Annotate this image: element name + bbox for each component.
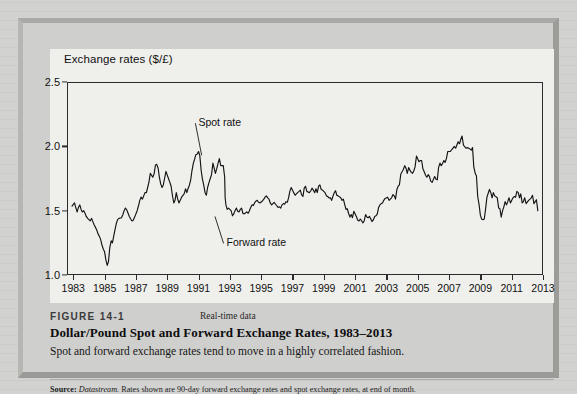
- source-detail: Rates shown are 90-day forward exchange …: [119, 385, 416, 394]
- x-tick-mark: [167, 275, 168, 280]
- x-tick-mark: [418, 275, 419, 280]
- x-tick-label: 1997: [281, 282, 304, 294]
- x-tick-label: 1991: [187, 282, 210, 294]
- x-tick-label: 2013: [531, 282, 554, 294]
- x-tick-mark: [73, 275, 74, 280]
- y-tick-mark: [62, 210, 67, 211]
- y-tick-label: 1.0: [34, 269, 60, 281]
- source-prefix: Source:: [50, 385, 77, 394]
- x-tick-label: 2011: [500, 282, 523, 294]
- x-tick-label: 2009: [469, 282, 492, 294]
- x-tick-label: 2007: [437, 282, 460, 294]
- x-tick-mark: [199, 275, 200, 280]
- y-tick-label: 2.0: [34, 140, 60, 152]
- figure-title: Dollar/Pound Spot and Forward Exchange R…: [50, 325, 392, 341]
- x-tick-mark: [512, 275, 513, 280]
- x-tick-label: 1993: [218, 282, 241, 294]
- x-tick-mark: [261, 275, 262, 280]
- x-tick-label: 1983: [62, 282, 85, 294]
- figure-box: Exchange rates ($/£) 1.01.52.02.51983198…: [18, 18, 559, 378]
- chart-annotation-forward-rate: Forward rate: [227, 236, 287, 248]
- y-tick-label: 2.5: [34, 76, 60, 88]
- x-tick-mark: [355, 275, 356, 280]
- figure-caption: FIGURE 14-1 Real-time data Dollar/Pound …: [50, 311, 554, 377]
- x-tick-mark: [386, 275, 387, 280]
- x-tick-mark: [105, 275, 106, 280]
- x-tick-label: 2001: [343, 282, 366, 294]
- x-tick-label: 2003: [375, 282, 398, 294]
- x-tick-mark: [230, 275, 231, 280]
- x-tick-label: 1995: [249, 282, 272, 294]
- figure-subtitle: Spot and forward exchange rates tend to …: [50, 345, 404, 357]
- figure-number: FIGURE 14-1: [50, 311, 125, 322]
- x-tick-label: 1985: [93, 282, 116, 294]
- x-tick-mark: [292, 275, 293, 280]
- y-tick-mark: [62, 146, 67, 147]
- x-tick-mark: [543, 275, 544, 280]
- x-tick-mark: [136, 275, 137, 280]
- x-tick-label: 1999: [312, 282, 335, 294]
- realtime-data-label: Real-time data: [200, 311, 256, 321]
- chart-plot-panel: Exchange rates ($/£) 1.01.52.02.51983198…: [50, 49, 554, 303]
- x-tick-label: 1989: [156, 282, 179, 294]
- series-line-spot-rate: [72, 136, 538, 265]
- x-tick-mark: [324, 275, 325, 280]
- x-tick-mark: [449, 275, 450, 280]
- source-publication: Datastream.: [79, 385, 119, 394]
- caption-divider: [50, 379, 554, 380]
- figure-source-note: Source: Datastream. Rates shown are 90-d…: [50, 385, 556, 394]
- y-tick-mark: [62, 274, 67, 275]
- y-tick-label: 1.5: [34, 205, 60, 217]
- x-tick-label: 1987: [124, 282, 147, 294]
- annotation-leader-line: [215, 216, 224, 243]
- y-tick-mark: [62, 81, 67, 82]
- chart-annotation-spot-rate: Spot rate: [198, 116, 241, 128]
- x-tick-label: 2005: [406, 282, 429, 294]
- x-tick-mark: [480, 275, 481, 280]
- exchange-rate-line-chart: [50, 49, 554, 303]
